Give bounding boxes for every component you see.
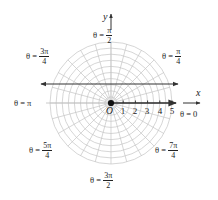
fraction-numerator: π [175,48,181,58]
fraction-pi-over-2: π 2 [106,27,112,45]
fraction-numerator: 7π [168,142,178,152]
fraction-3pi-over-2: 3π 2 [103,172,113,190]
radial-tick-label-3: 3 [142,107,152,116]
fraction-denominator: 4 [39,57,49,66]
radial-tick-label-5: 5 [167,107,177,116]
fraction-numerator: π [106,27,112,37]
polar-grid-figure: y x θ = π 2 θ = π 4 θ = 3π 4 θ = π θ = 0… [0,0,218,200]
theta-label-zero: θ = 0 [180,110,197,119]
theta-eq-text: θ = [162,51,173,61]
radial-tick-label-4: 4 [155,107,165,116]
fraction-denominator: 2 [106,36,112,45]
x-axis-label: x [196,88,200,98]
theta-eq-text: θ = [155,145,166,155]
fraction-5pi-over-4: 5π 4 [42,142,52,160]
fraction-pi-over-4: π 4 [175,48,181,66]
fraction-3pi-over-4: 3π 4 [39,48,49,66]
theta-label-pi: θ = π [14,99,31,108]
radial-tick-label-1: 1 [118,107,128,116]
origin-label: O [106,107,113,117]
theta-eq-text: θ = [93,30,104,40]
theta-label-3pi-over-4: θ = 3π 4 [26,48,49,66]
fraction-denominator: 4 [42,151,52,160]
fraction-numerator: 3π [39,48,49,58]
theta-label-pi-over-4: θ = π 4 [162,48,181,66]
theta-label-3pi-over-2: θ = 3π 2 [90,172,113,190]
theta-eq-text: θ = [26,51,37,61]
fraction-denominator: 4 [168,151,178,160]
fraction-7pi-over-4: 7π 4 [168,142,178,160]
fraction-numerator: 3π [103,172,113,182]
fraction-numerator: 5π [42,142,52,152]
theta-label-5pi-over-4: θ = 5π 4 [29,142,52,160]
theta-label-pi-over-2: θ = π 2 [93,27,112,45]
fraction-denominator: 4 [175,57,181,66]
fraction-denominator: 2 [103,181,113,190]
y-axis-label: y [103,12,107,22]
theta-label-7pi-over-4: θ = 7π 4 [155,142,178,160]
theta-eq-text: θ = [29,145,40,155]
radial-tick-label-2: 2 [130,107,140,116]
theta-eq-text: θ = [90,175,101,185]
